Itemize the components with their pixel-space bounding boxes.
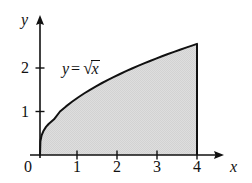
y-axis-label: y <box>21 12 28 28</box>
curve-equation-annotation: y=√x <box>62 60 100 78</box>
equation-operator: = <box>69 60 82 77</box>
origin-tick-label: 0 <box>20 159 36 175</box>
x-tick-label-1: 1 <box>69 159 85 175</box>
x-tick-label-3: 3 <box>149 159 165 175</box>
x-tick-label-2: 2 <box>109 159 125 175</box>
x-tick-label-4: 4 <box>189 159 205 175</box>
radicand: x <box>91 60 99 78</box>
x-axis-label: x <box>230 159 237 175</box>
y-tick-label-1: 1 <box>15 104 29 120</box>
plot-canvas <box>0 0 252 183</box>
x-axis-arrow-icon <box>214 151 224 159</box>
y-tick-label-2: 2 <box>15 60 29 76</box>
y-axis-arrow-icon <box>36 15 44 25</box>
figure-root: y x 0 1 2 3 4 1 2 y=√x <box>0 0 252 183</box>
radical-expression: √x <box>82 60 99 78</box>
